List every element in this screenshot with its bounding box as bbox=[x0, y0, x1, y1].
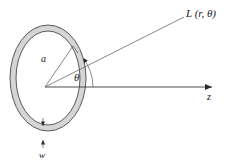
observation-point-label: L (r, θ) bbox=[185, 7, 216, 20]
geometry-diagram: L (r, θ) a θ z w bbox=[0, 0, 240, 162]
ring-annulus bbox=[0, 0, 240, 162]
width-label: w bbox=[39, 150, 45, 160]
radius-label: a bbox=[41, 53, 46, 64]
angle-label: θ bbox=[74, 71, 80, 83]
z-axis-label: z bbox=[206, 91, 211, 102]
figure-container: L (r, θ) a θ z w bbox=[0, 0, 240, 162]
ring-band-fill bbox=[0, 0, 240, 162]
